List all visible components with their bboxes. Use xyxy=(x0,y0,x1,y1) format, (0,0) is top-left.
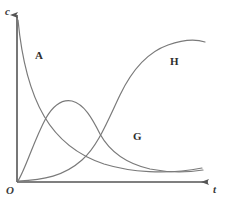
curve-label-g: G xyxy=(133,131,142,142)
curve-label-h: H xyxy=(170,56,179,67)
plot-area xyxy=(0,0,226,203)
curve-label-a: A xyxy=(35,50,43,61)
origin-label: O xyxy=(6,185,14,196)
x-axis-label: t xyxy=(213,184,216,195)
y-axis-label: c xyxy=(5,6,10,17)
concentration-time-chart: c t O A G H xyxy=(0,0,226,203)
curve-g xyxy=(18,101,203,181)
